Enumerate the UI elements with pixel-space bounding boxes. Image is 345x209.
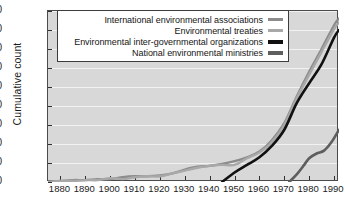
legend-color-swatch — [268, 40, 283, 44]
y-tick-label: 40 — [0, 137, 2, 148]
y-tick-label: 100 — [0, 80, 2, 91]
legend-color-swatch — [268, 29, 283, 32]
y-tick-label: 180 — [0, 4, 2, 15]
legend-item-label: Environmental inter-governmental organiz… — [74, 37, 263, 47]
legend-item[interactable]: National environmental ministries — [62, 47, 283, 58]
x-tick-label: 1990 — [313, 183, 345, 194]
y-tick-label: 60 — [0, 118, 2, 129]
y-tick-label: 160 — [0, 23, 2, 34]
chart-figure: Cumulative count 02040608010012014016018… — [0, 0, 345, 209]
legend-item-label: International environmental associations — [104, 15, 263, 25]
y-tick-mark — [48, 182, 52, 183]
legend-item[interactable]: International environmental associations — [62, 14, 283, 25]
legend-item[interactable]: Environmental treaties — [62, 25, 283, 36]
series-line — [289, 130, 339, 182]
y-tick-label: 140 — [0, 42, 2, 53]
legend-item-label: National environmental ministries — [132, 48, 263, 58]
legend-color-swatch — [268, 18, 283, 21]
y-tick-label: 0 — [0, 175, 2, 186]
y-tick-label: 120 — [0, 61, 2, 72]
y-axis-title: Cumulative count — [11, 9, 23, 159]
legend-color-swatch — [268, 51, 283, 55]
legend-item[interactable]: Environmental inter-governmental organiz… — [62, 36, 283, 47]
chart-legend: International environmental associations… — [57, 10, 289, 62]
legend-item-label: Environmental treaties — [175, 26, 263, 36]
y-tick-label: 20 — [0, 156, 2, 167]
y-tick-label: 80 — [0, 99, 2, 110]
